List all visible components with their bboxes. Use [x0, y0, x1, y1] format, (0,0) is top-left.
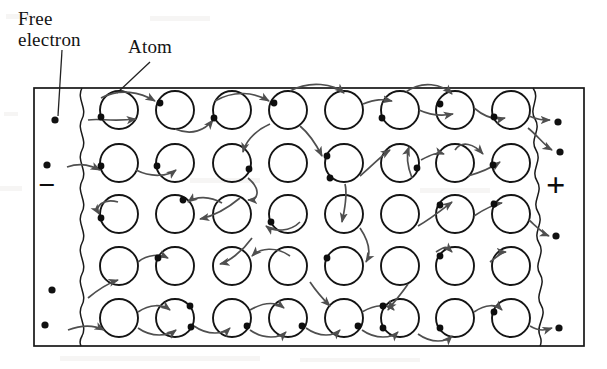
drift-arrow: [88, 280, 118, 298]
bound-electron: [157, 100, 164, 107]
electron-drift-paths: [67, 84, 552, 341]
atom: [156, 144, 194, 182]
drift-arrow: [194, 326, 230, 333]
drift-arrow: [310, 282, 330, 306]
atom: [492, 195, 530, 233]
bound-electron: [98, 114, 105, 121]
atom: [492, 299, 530, 337]
free-electron-dot-right: [554, 118, 561, 125]
bound-electron: [380, 303, 387, 310]
atom: [269, 195, 307, 233]
free-electron-dot-right: [555, 324, 562, 331]
atom: [269, 247, 307, 285]
drift-arrow: [418, 202, 452, 226]
bound-electron: [246, 166, 253, 173]
bound-electron: [98, 163, 105, 170]
atom: [156, 247, 194, 285]
wavy-boundary-right: [533, 88, 543, 346]
bound-electron: [380, 325, 387, 332]
atom: [156, 91, 194, 129]
free-electron-dot-right: [552, 232, 559, 239]
atom: [381, 91, 419, 129]
drift-arrow: [406, 85, 452, 94]
bound-electron: [379, 115, 386, 122]
bound-electron: [155, 255, 162, 262]
free-electron-dot-left: [51, 116, 58, 123]
atom: [381, 195, 419, 233]
bound-electron: [324, 255, 331, 262]
bound-electron: [187, 303, 194, 310]
drift-arrow: [306, 328, 340, 335]
bound-electron: [437, 101, 444, 108]
drift-arrow: [220, 238, 252, 264]
atom: [156, 195, 194, 233]
bound-electron: [268, 219, 275, 226]
drift-arrow: [388, 284, 408, 310]
negative-terminal-sign: −: [38, 170, 55, 200]
drift-arrow: [136, 170, 176, 175]
bound-electron: [490, 162, 497, 169]
drift-arrow: [243, 124, 270, 152]
drift-arrow: [490, 252, 506, 262]
bound-electrons: [98, 100, 498, 332]
bound-electron: [154, 163, 161, 170]
bound-electron: [437, 202, 444, 209]
atom: [381, 247, 419, 285]
drift-arrow: [362, 330, 398, 337]
atom: [436, 299, 474, 337]
bound-electron: [244, 323, 251, 330]
drift-arrow: [175, 120, 213, 132]
free-electron-dot-left: [41, 321, 48, 328]
positive-terminal-sign: +: [546, 168, 565, 202]
atom: [436, 195, 474, 233]
bound-electron: [98, 215, 105, 222]
drift-arrow: [408, 147, 412, 178]
drift-arrow: [474, 306, 502, 312]
atom: [100, 299, 138, 337]
atom: [325, 91, 363, 129]
free-electron-dot-left: [48, 286, 55, 293]
drift-arrow: [342, 184, 346, 222]
drift-arrow: [363, 100, 392, 104]
free-electron-leader-line: [58, 50, 62, 116]
bound-electron: [271, 100, 278, 107]
free-electron-label: Freeelectron: [18, 8, 81, 50]
figure-canvas: Freeelectron Atom − +: [0, 0, 607, 369]
atom: [381, 299, 419, 337]
drift-arrow: [529, 116, 550, 120]
drift-arrow: [530, 326, 552, 330]
atom-label: Atom: [128, 36, 172, 57]
drift-arrow: [421, 153, 444, 160]
atom: [213, 91, 251, 129]
free-electron-label-line1: Free: [18, 8, 53, 29]
atom: [492, 247, 530, 285]
drift-arrow: [250, 330, 286, 337]
drift-arrow: [250, 304, 284, 310]
bound-electron: [299, 323, 306, 330]
atom: [492, 91, 530, 129]
drift-arrow: [138, 328, 176, 335]
bound-electron: [188, 324, 195, 331]
atom: [436, 247, 474, 285]
bound-electron: [491, 309, 498, 316]
conductor-diagram: [0, 0, 607, 369]
atom: [100, 144, 138, 182]
bound-electron: [437, 325, 444, 332]
drift-arrow: [68, 326, 104, 330]
bound-electron: [414, 165, 421, 172]
drift-arrow: [138, 306, 170, 312]
wavy-boundary-left: [80, 88, 84, 346]
atom-lattice: [100, 91, 530, 337]
atom: [325, 247, 363, 285]
atom: [100, 247, 138, 285]
drift-arrow: [360, 150, 390, 176]
bound-electron: [355, 323, 362, 330]
drift-arrow: [474, 108, 505, 119]
bound-electron: [437, 253, 444, 260]
atom: [325, 299, 363, 337]
bound-electron: [327, 175, 334, 182]
atom: [381, 144, 419, 182]
drift-arrow: [88, 119, 136, 120]
atom: [213, 144, 251, 182]
atom: [436, 91, 474, 129]
